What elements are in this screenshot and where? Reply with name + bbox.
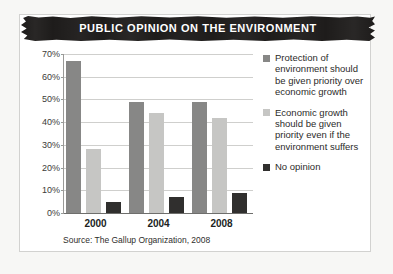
bar-chart: 0%10%20%30%40%50%60%70%200020042008 Prot… xyxy=(19,14,371,252)
bar-2000-series-2 xyxy=(106,202,121,213)
bar-group-2004: 2004 xyxy=(127,54,190,213)
plot-area: 0%10%20%30%40%50%60%70%200020042008 xyxy=(63,54,253,214)
y-axis-tick-label: 0% xyxy=(47,208,60,218)
y-axis-tick-label: 70% xyxy=(42,49,60,59)
x-axis-tick-label-2000: 2000 xyxy=(64,218,127,229)
legend-swatch-icon-economic xyxy=(263,109,270,116)
bar-2008-series-2 xyxy=(232,193,247,213)
x-axis-tick-label-2008: 2008 xyxy=(190,218,253,229)
y-axis-tick-mark xyxy=(61,213,64,214)
y-axis-tick-label: 50% xyxy=(42,94,60,104)
y-axis-tick-label: 40% xyxy=(42,117,60,127)
y-axis-tick-label: 30% xyxy=(42,140,60,150)
y-axis-tick-label: 20% xyxy=(42,163,60,173)
bar-2004-series-2 xyxy=(169,197,184,213)
legend-swatch-icon-protection xyxy=(263,55,270,62)
bar-2000-series-0 xyxy=(66,61,81,213)
source-note: Source: The Gallup Organization, 2008 xyxy=(63,235,210,245)
bar-2000-series-1 xyxy=(86,149,101,213)
x-axis-tick-label-2004: 2004 xyxy=(127,218,190,229)
legend-label-economic: Economic growth should be given priority… xyxy=(275,107,358,152)
y-axis-tick-label: 10% xyxy=(42,185,60,195)
legend-item-no-opinion: No opinion xyxy=(263,161,369,172)
bar-2004-series-1 xyxy=(149,113,164,213)
page-background: PUBLIC OPINION ON THE ENVIRONMENT 0%10%2… xyxy=(0,0,393,274)
bar-2008-series-1 xyxy=(212,118,227,213)
legend-label-protection: Protection of environment should be give… xyxy=(275,52,363,97)
legend-label-no-opinion: No opinion xyxy=(275,161,320,172)
bar-2008-series-0 xyxy=(192,102,207,213)
legend-item-protection: Protection of environment should be give… xyxy=(263,52,369,98)
bar-2004-series-0 xyxy=(129,102,144,213)
legend-item-economic: Economic growth should be given priority… xyxy=(263,107,369,153)
bar-group-2008: 2008 xyxy=(190,54,253,213)
chart-legend: Protection of environment should be give… xyxy=(263,52,369,182)
bar-group-2000: 2000 xyxy=(64,54,127,213)
y-axis-tick-label: 60% xyxy=(42,72,60,82)
legend-swatch-icon-no-opinion xyxy=(263,164,270,171)
